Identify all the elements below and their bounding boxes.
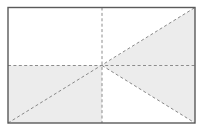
- geometric-diagram: [0, 0, 204, 132]
- region-top-left-quadrant: [8, 8, 102, 66]
- diagram-canvas: [0, 0, 204, 132]
